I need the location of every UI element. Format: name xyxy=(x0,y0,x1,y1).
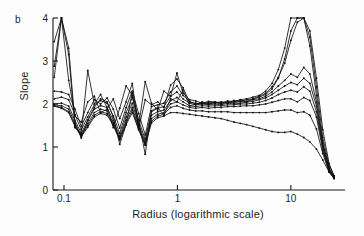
figure-panel: b Slope Radius (logarithmic scale) 01234… xyxy=(0,0,364,236)
svg-text:10: 10 xyxy=(285,193,297,204)
svg-text:0.1: 0.1 xyxy=(57,193,71,204)
series-curve-1 xyxy=(53,17,335,177)
series-curve-9 xyxy=(53,105,335,179)
series-curve-2 xyxy=(53,17,335,177)
line-chart: 012340.1110 xyxy=(0,0,364,236)
series-curve-3 xyxy=(53,17,335,178)
tick-marks xyxy=(53,18,291,190)
svg-text:3: 3 xyxy=(42,56,48,67)
svg-text:1: 1 xyxy=(175,193,181,204)
series-curve-5 xyxy=(53,77,335,178)
svg-text:1: 1 xyxy=(42,142,48,153)
series-curve-7 xyxy=(53,97,335,180)
data-series xyxy=(53,17,335,179)
svg-text:2: 2 xyxy=(42,99,48,110)
svg-text:0: 0 xyxy=(42,185,48,196)
svg-text:4: 4 xyxy=(42,13,48,24)
